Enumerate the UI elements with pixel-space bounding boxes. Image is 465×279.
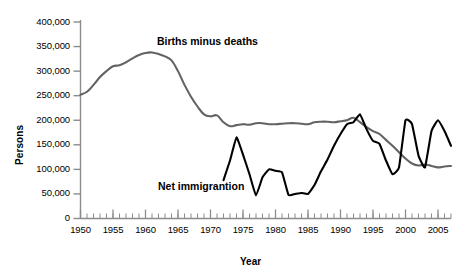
y-axis-tick-label: 0: [6, 212, 70, 223]
series-line-births-minus-deaths: [81, 52, 452, 167]
x-axis-tick-label: 2005: [418, 224, 458, 235]
series-line-net-immigration: [224, 114, 452, 195]
y-axis-tick-label: 400,000: [6, 16, 70, 27]
y-axis-title: Persons: [14, 125, 25, 165]
x-axis-title: Year: [240, 256, 261, 267]
chart-container: 050,000100,000150,000200,000250,000300,0…: [0, 0, 465, 279]
series-label-births-minus-deaths: Births minus deaths: [157, 35, 258, 47]
y-axis-tick-label: 200,000: [6, 114, 70, 125]
y-axis-tick-label: 300,000: [6, 65, 70, 76]
series-label-net-immigration: Net immigrantion: [158, 180, 244, 192]
y-axis-ticks: [74, 22, 81, 219]
y-axis-tick-label: 350,000: [6, 40, 70, 51]
x-axis-minor-ticks: [81, 214, 452, 219]
x-axis-major-ticks: [81, 210, 439, 219]
y-axis-tick-label: 50,000: [6, 187, 70, 198]
y-axis-tick-label: 250,000: [6, 89, 70, 100]
